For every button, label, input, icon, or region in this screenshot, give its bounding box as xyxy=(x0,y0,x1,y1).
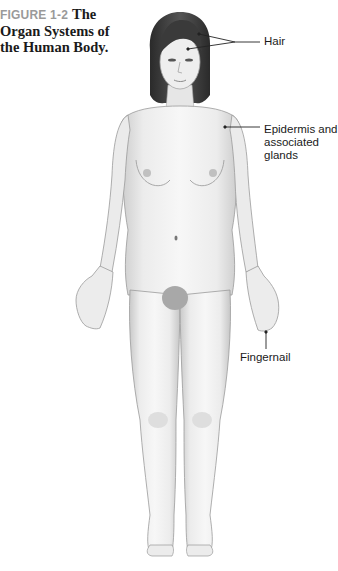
label-fingernail: Fingernail xyxy=(240,351,291,364)
label-epidermis-line2: associated xyxy=(264,136,319,148)
left-hand-shape xyxy=(76,266,113,329)
fingernail-leader-line xyxy=(265,331,267,349)
torso-shape xyxy=(119,106,242,295)
label-epidermis-line1: Epidermis and xyxy=(264,123,338,135)
label-hair: Hair xyxy=(264,35,285,48)
right-foot-shape xyxy=(187,545,213,556)
pubic-area xyxy=(162,286,188,310)
left-foot-shape xyxy=(147,545,173,556)
human-body-illustration xyxy=(0,0,338,571)
label-epidermis: Epidermis and associated glands xyxy=(264,123,338,162)
right-hand-shape xyxy=(246,266,279,331)
navel xyxy=(175,236,178,241)
label-epidermis-line3: glands xyxy=(264,149,298,161)
